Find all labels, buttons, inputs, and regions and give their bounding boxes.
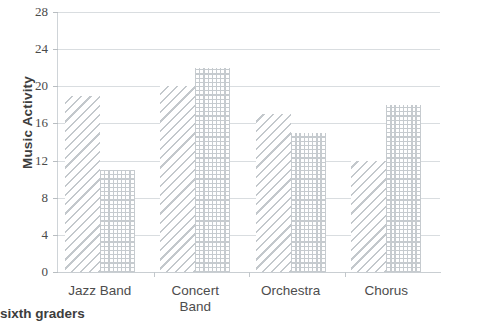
y-tick-mark [53, 86, 58, 87]
plot-area [58, 12, 440, 272]
gridline [58, 12, 440, 13]
x-tick-mark [345, 272, 346, 277]
y-tick-label: 16 [8, 115, 48, 131]
bar [65, 96, 100, 272]
x-tick-mark [249, 272, 250, 277]
y-tick-label: 0 [8, 264, 48, 280]
y-tick-mark [53, 123, 58, 124]
bar [195, 68, 230, 272]
bar-chart: Music Activity Jazz BandConcert BandOrch… [0, 0, 503, 323]
y-tick-label: 12 [8, 153, 48, 169]
bar [160, 86, 195, 272]
x-tick-label: Chorus [326, 283, 446, 299]
y-tick-mark [53, 198, 58, 199]
y-tick-label: 8 [8, 190, 48, 206]
gridline [58, 49, 440, 50]
gridline [58, 123, 440, 124]
x-tick-mark [154, 272, 155, 277]
chart-caption: sixth graders [0, 306, 85, 321]
bar [386, 105, 421, 272]
bar [351, 161, 386, 272]
y-tick-mark [53, 235, 58, 236]
bar [100, 170, 135, 272]
y-tick-mark [53, 12, 58, 13]
y-tick-label: 20 [8, 78, 48, 94]
y-axis-spine [57, 12, 58, 273]
y-tick-label: 28 [8, 4, 48, 20]
bar [291, 133, 326, 272]
bar [256, 114, 291, 272]
gridline [58, 86, 440, 87]
y-tick-mark [53, 161, 58, 162]
y-tick-label: 24 [8, 41, 48, 57]
y-tick-mark [53, 49, 58, 50]
y-tick-label: 4 [8, 227, 48, 243]
